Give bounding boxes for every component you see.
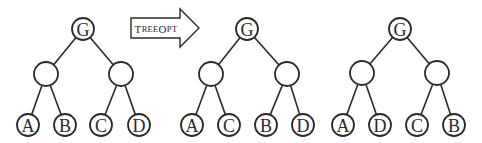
tree-edge	[421, 84, 433, 115]
trees: GABCDGACBDGADCB	[17, 18, 465, 136]
leaf-node-b: B	[54, 114, 76, 136]
tree-edge	[366, 84, 376, 114]
treeopt-arrow: TREEOPT	[131, 9, 199, 47]
node-label: A	[186, 116, 199, 136]
original-tree: GABCD	[17, 18, 150, 136]
root-node: G	[236, 18, 258, 40]
node-circle	[199, 62, 223, 86]
tree-edge	[125, 85, 135, 114]
internal-node	[109, 62, 133, 86]
tree-edge	[347, 84, 358, 114]
leaf-node-d: D	[128, 114, 150, 136]
tree-edge	[291, 85, 300, 114]
leaf-node-c: C	[406, 114, 428, 136]
node-circle	[275, 62, 299, 86]
tree-edge	[196, 85, 207, 114]
node-label: B	[260, 116, 272, 136]
root-node: G	[72, 18, 94, 40]
leaf-node-d: D	[369, 114, 391, 136]
tree-edge	[441, 84, 451, 114]
node-label: G	[241, 20, 254, 40]
node-label: G	[394, 20, 407, 40]
node-label: B	[448, 116, 460, 136]
node-label: G	[77, 20, 90, 40]
node-label: B	[59, 116, 71, 136]
node-label: D	[374, 116, 387, 136]
tree-edge	[370, 37, 393, 64]
tree-edge	[215, 85, 225, 114]
internal-node	[34, 62, 58, 86]
tree-edge	[50, 85, 61, 114]
optimized-tree-2: GADCB	[332, 18, 465, 136]
internal-node	[199, 62, 223, 86]
leaf-node-d: D	[292, 114, 314, 136]
leaf-node-a: A	[332, 114, 354, 136]
node-circle	[425, 61, 449, 85]
tree-edge	[218, 38, 240, 65]
node-label: A	[22, 116, 35, 136]
node-label: C	[411, 116, 423, 136]
root-node: G	[389, 18, 411, 40]
node-circle	[350, 61, 374, 85]
tree-edge	[254, 37, 279, 65]
tree-edge	[270, 85, 282, 115]
tree-edge	[54, 37, 76, 64]
leaf-node-c: C	[90, 114, 112, 136]
internal-node	[350, 61, 374, 85]
tree-edge	[407, 37, 429, 63]
leaf-node-b: B	[255, 114, 277, 136]
tree-optimization-diagram: TREEOPT GABCDGACBDGADCB	[0, 0, 482, 143]
node-circle	[109, 62, 133, 86]
leaf-node-a: A	[17, 114, 39, 136]
node-label: C	[223, 116, 235, 136]
optimized-tree-1: GACBD	[181, 18, 314, 136]
tree-edge	[105, 85, 117, 115]
tree-edge	[90, 37, 113, 64]
internal-node	[425, 61, 449, 85]
node-circle	[34, 62, 58, 86]
internal-node	[275, 62, 299, 86]
leaf-node-c: C	[218, 114, 240, 136]
leaf-node-b: B	[443, 114, 465, 136]
tree-edge	[32, 85, 42, 114]
node-label: D	[297, 116, 310, 136]
node-label: A	[337, 116, 350, 136]
node-label: D	[133, 116, 146, 136]
arrow-label: TREEOPT	[135, 23, 178, 35]
leaf-node-a: A	[181, 114, 203, 136]
node-label: C	[95, 116, 107, 136]
